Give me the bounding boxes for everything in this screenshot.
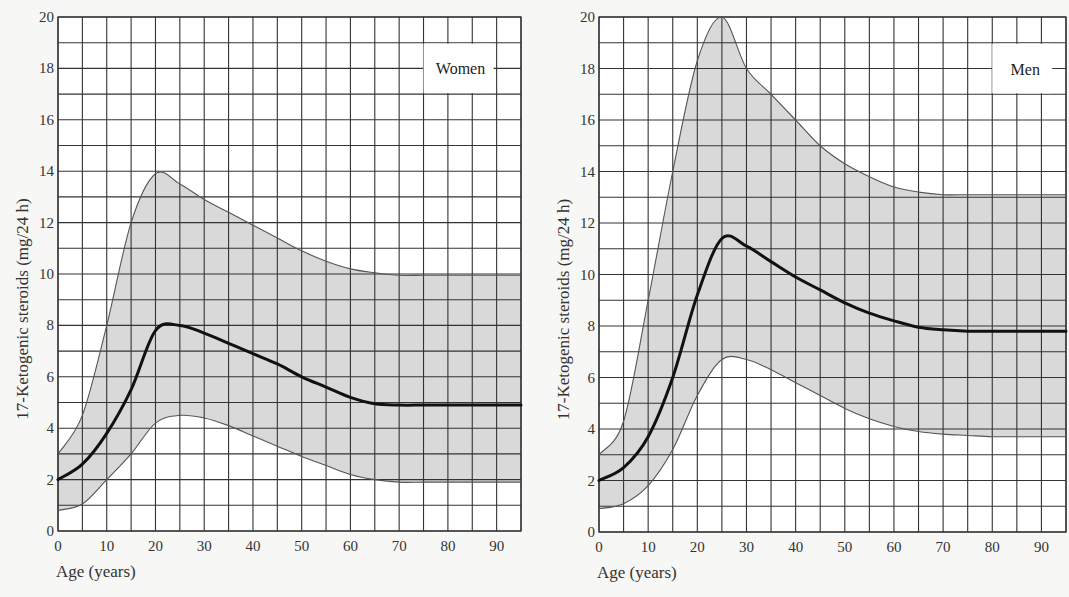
y-tick-label: 2 (588, 473, 596, 489)
panel-title: Men (1011, 61, 1040, 78)
y-tick-label: 20 (39, 9, 54, 25)
x-tick-label: 90 (489, 538, 504, 554)
y-tick-label: 16 (39, 112, 55, 128)
x-tick-label: 20 (690, 539, 705, 555)
y-tick-label: 6 (588, 370, 596, 386)
y-tick-label: 4 (588, 421, 596, 437)
x-tick-label: 80 (440, 538, 455, 554)
y-tick-label: 0 (47, 523, 55, 539)
x-tick-label: 0 (595, 539, 603, 555)
x-tick-label: 90 (1034, 539, 1049, 555)
chart-figure: 010203040506070809002468101214161820Age … (0, 0, 1069, 597)
x-tick-label: 70 (936, 539, 951, 555)
y-tick-label: 18 (580, 61, 595, 77)
x-tick-label: 20 (148, 538, 163, 554)
x-tick-label: 10 (99, 538, 114, 554)
y-axis-label: 17-Ketogenic steroids (mg/24 h) (13, 198, 32, 419)
y-tick-label: 8 (47, 317, 55, 333)
x-tick-label: 40 (245, 538, 260, 554)
y-tick-label: 6 (47, 369, 55, 385)
y-tick-label: 2 (47, 472, 55, 488)
y-tick-label: 14 (580, 164, 596, 180)
men-panel: 010203040506070809002468101214161820Age … (554, 9, 1066, 582)
x-axis-label: Age (years) (597, 563, 677, 582)
y-tick-label: 14 (39, 163, 55, 179)
x-tick-label: 10 (641, 539, 656, 555)
panel-title: Women (436, 60, 485, 77)
y-axis-label: 17-Ketogenic steroids (mg/24 h) (554, 199, 573, 420)
grid (599, 17, 1066, 532)
x-tick-label: 30 (197, 538, 212, 554)
x-tick-label: 70 (392, 538, 407, 554)
x-tick-label: 40 (788, 539, 803, 555)
y-tick-label: 10 (580, 267, 595, 283)
y-tick-label: 10 (39, 266, 54, 282)
x-tick-label: 50 (294, 538, 309, 554)
y-tick-label: 12 (39, 215, 54, 231)
women-panel: 010203040506070809002468101214161820Age … (13, 9, 521, 581)
y-tick-label: 20 (580, 9, 595, 25)
x-tick-label: 80 (985, 539, 1000, 555)
y-tick-label: 0 (588, 524, 596, 540)
x-tick-label: 60 (886, 539, 901, 555)
x-tick-label: 60 (343, 538, 358, 554)
x-tick-label: 0 (54, 538, 62, 554)
x-axis-label: Age (years) (56, 562, 136, 581)
y-tick-label: 8 (588, 318, 596, 334)
y-tick-label: 16 (580, 112, 596, 128)
x-tick-label: 50 (837, 539, 852, 555)
y-tick-label: 12 (580, 215, 595, 231)
grid (58, 17, 521, 531)
x-tick-label: 30 (739, 539, 754, 555)
y-tick-label: 18 (39, 60, 54, 76)
y-tick-label: 4 (47, 420, 55, 436)
